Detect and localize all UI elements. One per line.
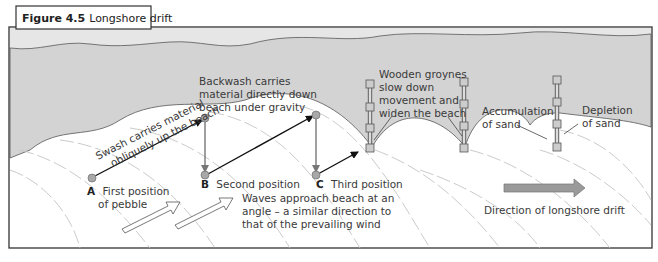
- pebble-a: [88, 174, 96, 182]
- figure-caption: Figure 4.5Longshore drift: [16, 6, 173, 29]
- svg-text:Figure 4.5Longshore drift: Figure 4.5Longshore drift: [22, 12, 173, 25]
- longshore-drift-label: Direction of longshore drift: [484, 204, 625, 216]
- longshore-drift-diagram: Figure 4.5Longshore drift: [0, 0, 658, 262]
- position-b-label: B Second position: [201, 178, 300, 190]
- figure-title: Longshore drift: [89, 12, 173, 25]
- pebble-c-top: [312, 111, 320, 119]
- waves-label: Waves approach beach at an angle – a sim…: [242, 192, 398, 230]
- groynes-label: Wooden groynes slow down movement and wi…: [379, 68, 470, 119]
- figure-number: Figure 4.5: [22, 12, 85, 25]
